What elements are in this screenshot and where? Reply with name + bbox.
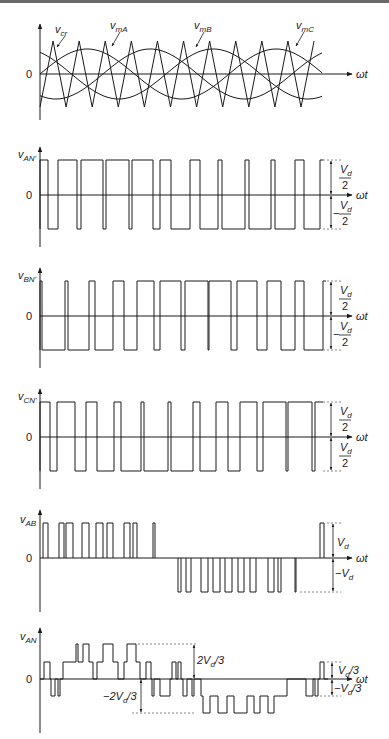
zero-label: 0 bbox=[26, 431, 32, 443]
zero-label: 0 bbox=[26, 673, 32, 685]
label-pos-vd-2: Vd bbox=[340, 284, 352, 299]
ylabel-van-prime: vAN' bbox=[18, 148, 37, 163]
label-2vd-3: 2Vd/3 bbox=[196, 654, 225, 669]
svg-text:vmC: vmC bbox=[296, 19, 314, 34]
omega-t-label: ωt bbox=[356, 68, 369, 80]
omega-t-label: ωt bbox=[356, 189, 369, 201]
label-neg-vd-2: Vd bbox=[340, 441, 352, 456]
label-neg-vd-2: Vd bbox=[340, 199, 352, 214]
label-vcr: vcr bbox=[55, 23, 68, 47]
svg-text:vcr: vcr bbox=[55, 23, 68, 38]
omega-t-label: ωt bbox=[356, 431, 369, 443]
svg-text:2: 2 bbox=[342, 215, 348, 227]
svg-text:−: − bbox=[333, 207, 339, 219]
label-neg-vd-2: Vd bbox=[340, 320, 352, 335]
svg-text:−: − bbox=[333, 328, 339, 340]
ylabel-vab: vAB bbox=[20, 513, 37, 528]
svg-text:2: 2 bbox=[342, 300, 348, 312]
label-neg-vd-3: −Vd/3 bbox=[334, 682, 362, 697]
panel-carrier-modulating: 0 ωt vcr vmA vmB vmC bbox=[26, 19, 369, 120]
panel-van: 0 ωt vAN 2Vd/3 −2Vd/3 Vd/3 −Vd/3 bbox=[20, 628, 369, 733]
panel-vcn-prime: 0ωtvCN'Vd2Vd2 bbox=[18, 389, 369, 489]
label-pos-vd-2: Vd bbox=[340, 163, 352, 178]
label-vmc: vmC bbox=[296, 19, 314, 46]
ylabel-van: vAN bbox=[20, 630, 37, 645]
label-neg-2vd-3: −2Vd/3 bbox=[103, 690, 137, 705]
ylabel-vbn-prime: vBN' bbox=[18, 269, 37, 284]
svg-text:2: 2 bbox=[342, 457, 348, 469]
svg-text:vmA: vmA bbox=[110, 19, 128, 34]
panel-vab: 0 ωt vAB Vd −Vd bbox=[20, 510, 369, 612]
zero-label: 0 bbox=[26, 68, 32, 80]
pwm-waveform-diagram: 0 ωt vcr vmA vmB vmC 0ωtvAN'Vd2Vd2−0ωtvB… bbox=[0, 0, 389, 739]
zero-label: 0 bbox=[26, 552, 32, 564]
label-vma: vmA bbox=[110, 19, 128, 46]
panel-vbn-prime: 0ωtvBN'Vd2Vd2− bbox=[18, 268, 369, 368]
label-pos-vd-2: Vd bbox=[340, 405, 352, 420]
zero-label: 0 bbox=[26, 189, 32, 201]
svg-text:2: 2 bbox=[342, 336, 348, 348]
ylabel-vcn-prime: vCN' bbox=[18, 390, 37, 405]
svg-text:vmB: vmB bbox=[194, 19, 212, 34]
svg-text:2: 2 bbox=[342, 179, 348, 191]
label-vd: Vd bbox=[337, 536, 349, 551]
zero-label: 0 bbox=[26, 310, 32, 322]
omega-t-label: ωt bbox=[356, 552, 369, 564]
panel-van-prime: 0ωtvAN'Vd2Vd2− bbox=[18, 147, 369, 247]
svg-text:2: 2 bbox=[342, 421, 348, 433]
label-neg-vd: −Vd bbox=[335, 567, 354, 582]
omega-t-label: ωt bbox=[356, 310, 369, 322]
